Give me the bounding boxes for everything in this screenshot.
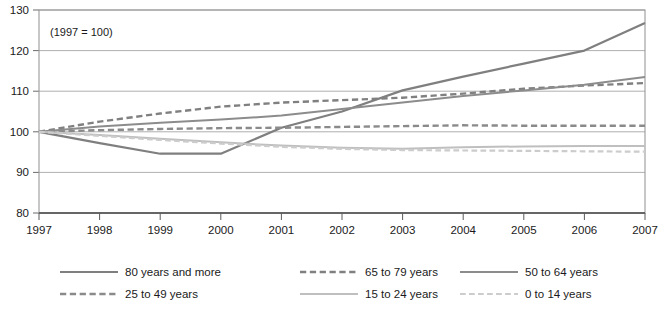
y-axis-tick-label: 130 bbox=[10, 4, 29, 16]
legend-label-1: 65 to 79 years bbox=[365, 266, 438, 278]
y-axis-tick-label: 110 bbox=[11, 85, 29, 97]
line-chart: 8090100110120130199719981999200020012002… bbox=[0, 0, 664, 315]
chart-container: 8090100110120130199719981999200020012002… bbox=[0, 0, 664, 315]
y-axis-tick-label: 90 bbox=[16, 166, 29, 178]
y-axis-tick-label: 100 bbox=[10, 126, 29, 138]
legend-label-2: 50 to 64 years bbox=[525, 266, 598, 278]
x-axis-tick-label: 2007 bbox=[632, 224, 658, 236]
x-axis-tick-label: 2002 bbox=[329, 224, 355, 236]
x-axis-tick-label: 2004 bbox=[450, 224, 476, 236]
x-axis-tick-label: 2003 bbox=[390, 224, 416, 236]
x-axis-tick-label: 1997 bbox=[26, 224, 52, 236]
x-axis-tick-label: 2006 bbox=[572, 224, 598, 236]
y-axis-tick-label: 80 bbox=[16, 207, 29, 219]
legend-label-3: 25 to 49 years bbox=[125, 288, 198, 300]
x-axis-tick-label: 1999 bbox=[147, 224, 173, 236]
legend-label-4: 15 to 24 years bbox=[365, 288, 438, 300]
y-axis-tick-label: 120 bbox=[10, 45, 29, 57]
legend-label-0: 80 years and more bbox=[125, 266, 221, 278]
legend-label-5: 0 to 14 years bbox=[525, 288, 592, 300]
x-axis-tick-label: 2005 bbox=[511, 224, 537, 236]
x-axis-tick-label: 1998 bbox=[87, 224, 113, 236]
chart-annotation: (1997 = 100) bbox=[50, 26, 113, 38]
x-axis-tick-label: 2000 bbox=[208, 224, 234, 236]
x-axis-tick-label: 2001 bbox=[269, 224, 295, 236]
